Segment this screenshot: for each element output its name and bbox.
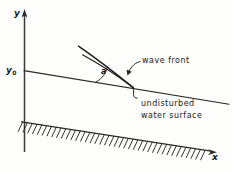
channel-bed-hatching bbox=[18, 122, 205, 160]
figure-canvas: y y0 a wave front undisturbedwater surfa… bbox=[0, 0, 232, 172]
y-origin-subscript: 0 bbox=[12, 69, 16, 76]
undisturbed-water-surface-label: undisturbedwater surface bbox=[141, 98, 202, 122]
wave-front-label: wave front bbox=[142, 56, 190, 65]
wave-front-leader-line bbox=[128, 62, 140, 73]
undisturbed-water-surface-label-line1: undisturbed bbox=[141, 99, 195, 108]
wave-front-diagram bbox=[0, 0, 232, 172]
y-origin-label: y0 bbox=[6, 65, 16, 75]
y-axis-label: y bbox=[14, 8, 20, 18]
channel-bed-line bbox=[22, 122, 212, 151]
undisturbed-leader-line bbox=[134, 89, 138, 99]
y-axis-group bbox=[22, 9, 28, 152]
wave-front-leader bbox=[127, 62, 141, 76]
x-axis-label: x bbox=[212, 152, 218, 162]
angle-alpha-label: a bbox=[101, 67, 107, 76]
wave-front-lower-line bbox=[83, 55, 134, 88]
undisturbed-water-surface-label-line2: water surface bbox=[141, 111, 202, 120]
channel-bed-group bbox=[18, 122, 217, 160]
